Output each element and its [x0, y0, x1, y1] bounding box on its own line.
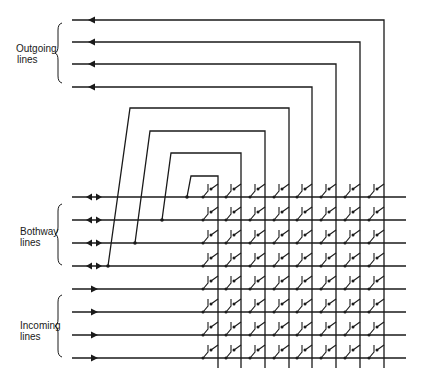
crosspoint-dot: [281, 188, 284, 191]
crosspoint-dot: [202, 219, 205, 222]
crosspoint-dot: [202, 242, 205, 245]
crosspoint-dot: [273, 311, 276, 314]
crosspoint-contact: [297, 207, 302, 220]
crosspoint-dot: [233, 188, 236, 191]
crosspoint-dot: [257, 234, 260, 237]
crosspoint-dot: [368, 265, 371, 268]
crosspoint-dot: [233, 234, 236, 237]
crosspoint-contact: [297, 184, 302, 197]
crosspoint-dot: [376, 280, 379, 283]
arrow-left-icon: [88, 84, 95, 91]
crosspoint-dot: [257, 257, 260, 260]
crosspoint-dot: [257, 326, 260, 329]
crosspoint-dot: [328, 280, 331, 283]
crosspoint-dot: [344, 311, 347, 314]
crosspoint-dot: [328, 257, 331, 260]
crosspoint-dot: [210, 211, 213, 214]
crosspoint-contact: [250, 299, 255, 312]
crosspoint-contact: [321, 253, 326, 266]
crosspoint-contact: [250, 207, 255, 220]
crosspoint-dot: [249, 196, 252, 199]
crosspoint-dot: [249, 288, 252, 291]
crosspoint-dot: [352, 326, 355, 329]
crosspoint-dot: [281, 326, 284, 329]
crosspoint-dot: [281, 280, 284, 283]
crosspoint-contact: [203, 276, 208, 289]
bothway-loop-line: [135, 131, 265, 368]
crosspoint-contact: [226, 322, 231, 335]
crosspoint-contact: [226, 184, 231, 197]
outgoing-line: [72, 87, 312, 368]
crosspoint-dot: [368, 219, 371, 222]
crosspoint-contact: [345, 276, 350, 289]
crosspoint-contact: [321, 230, 326, 243]
crosspoint-matrix: [72, 17, 406, 369]
crosspoint-dot: [281, 303, 284, 306]
crosspoint-dot: [257, 211, 260, 214]
arrow-left-icon: [86, 263, 92, 270]
crosspoint-dot: [210, 280, 213, 283]
crosspoint-dot: [328, 326, 331, 329]
crosspoint-dot: [304, 349, 307, 352]
crosspoint-dot: [281, 234, 284, 237]
crosspoint-contact: [274, 207, 279, 220]
crosspoint-contact: [250, 345, 255, 358]
crosspoint-dot: [376, 303, 379, 306]
crosspoint-dot: [225, 334, 228, 337]
crosspoint-dot: [320, 219, 323, 222]
crosspoint-contact: [226, 299, 231, 312]
crosspoint-dot: [257, 349, 260, 352]
crosspoint-contact: [321, 207, 326, 220]
crosspoint-dot: [328, 349, 331, 352]
crosspoint-dot: [225, 357, 228, 360]
crosspoint-dot: [376, 349, 379, 352]
crosspoint-dot: [225, 265, 228, 268]
arrow-right-icon: [96, 263, 102, 270]
crosspoint-dot: [273, 196, 276, 199]
crosspoint-dot: [233, 303, 236, 306]
crosspoint-dot: [352, 349, 355, 352]
crosspoint-dot: [202, 288, 205, 291]
crosspoint-dot: [210, 303, 213, 306]
crosspoint-contact: [203, 299, 208, 312]
crosspoint-contact: [345, 184, 350, 197]
crosspoint-dot: [344, 288, 347, 291]
crosspoint-contact: [345, 345, 350, 358]
crosspoint-dot: [296, 242, 299, 245]
crosspoint-contact: [369, 253, 374, 266]
crosspoint-dot: [368, 357, 371, 360]
crosspoint-dot: [320, 311, 323, 314]
crosspoint-dot: [233, 326, 236, 329]
crosspoint-dot: [281, 349, 284, 352]
crosspoint-dot: [296, 357, 299, 360]
crosspoint-dot: [368, 196, 371, 199]
crosspoint-dot: [233, 280, 236, 283]
crosspoint-dot: [328, 211, 331, 214]
crosspoint-contact: [321, 345, 326, 358]
crosspoint-dot: [328, 188, 331, 191]
crosspoint-dot: [225, 242, 228, 245]
crosspoint-dot: [210, 349, 213, 352]
crosspoint-dot: [249, 265, 252, 268]
crosspoint-contact: [297, 299, 302, 312]
crosspoint-contact: [250, 322, 255, 335]
crosspoint-dot: [296, 265, 299, 268]
crosspoint-dot: [320, 357, 323, 360]
bothway-brace: [55, 204, 62, 265]
outgoing-label-sub: lines: [17, 54, 38, 65]
crosspoint-dot: [320, 196, 323, 199]
crosspoint-dot: [376, 188, 379, 191]
crosspoint-dot: [257, 280, 260, 283]
crosspoint-dot: [344, 334, 347, 337]
crosspoint-contact: [297, 230, 302, 243]
crosspoint-dot: [273, 242, 276, 245]
crosspoint-contact: [203, 184, 208, 197]
crosspoint-dot: [296, 196, 299, 199]
crosspoint-dot: [352, 303, 355, 306]
crosspoint-dot: [249, 219, 252, 222]
crosspoint-contact: [369, 276, 374, 289]
crosspoint-dot: [344, 242, 347, 245]
crosspoint-contact: [226, 230, 231, 243]
crosspoint-contact: [226, 253, 231, 266]
bothway-loop-line: [187, 176, 218, 368]
